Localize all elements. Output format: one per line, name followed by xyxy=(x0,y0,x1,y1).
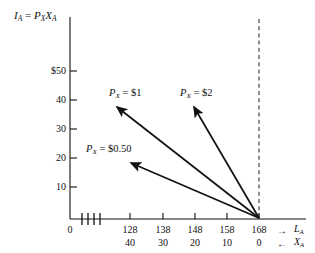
x-tick-label-0: 0 xyxy=(58,225,82,235)
y-tick-label-50: $50 xyxy=(38,66,66,76)
series-line-p2 xyxy=(194,107,259,218)
y-axis-title-x-sub: A xyxy=(52,14,57,23)
x-axis-name-la: LA xyxy=(294,224,304,234)
series-line-p1 xyxy=(117,107,259,218)
y-axis-title-eq: = xyxy=(25,9,31,21)
x-tick-label-168: 168 xyxy=(241,225,277,235)
y-axis-title-i-sub: A xyxy=(18,14,23,23)
x-tick-label-128: 128 xyxy=(112,225,148,235)
series-label-p1: PX = $1 xyxy=(109,88,141,99)
x-tick-label-158: 158 xyxy=(209,225,245,235)
y-axis-ticks xyxy=(70,71,77,187)
x-tick-label-138: 138 xyxy=(145,225,181,235)
x2-tick-label-20: 20 xyxy=(177,238,213,248)
right-arrow-icon: → xyxy=(277,225,287,236)
series-label-p2: PX = $2 xyxy=(180,88,212,99)
x-axis-name-xa-sub: A xyxy=(300,241,304,248)
y-tick-label-10: 10 xyxy=(38,182,66,192)
left-arrow-icon: ← xyxy=(277,238,287,249)
x-axis-name-xa: XA xyxy=(294,237,304,247)
x2-tick-label-10: 10 xyxy=(209,238,245,248)
x-axis-ticks xyxy=(130,213,259,219)
y-axis-title-x: X xyxy=(45,9,52,21)
y-axis-title: IA = PXXA xyxy=(14,10,57,21)
y-axis-title-p-sub: X xyxy=(41,14,46,23)
x-tick-label-148: 148 xyxy=(177,225,213,235)
series-line-p050 xyxy=(131,163,259,218)
y-tick-label-30: 30 xyxy=(38,124,66,134)
x2-tick-label-30: 30 xyxy=(145,238,181,248)
series-label-p050: PX = $0.50 xyxy=(86,144,132,155)
y-tick-label-40: 40 xyxy=(38,95,66,105)
y-tick-label-20: 20 xyxy=(38,153,66,163)
chart-figure: IA = PXXA $50 40 30 20 10 0 128 138 148 … xyxy=(0,0,315,253)
x-axis-name-la-sub: A xyxy=(300,228,304,235)
x2-tick-label-0: 0 xyxy=(241,238,277,248)
y-axis-title-p: P xyxy=(34,9,41,21)
x2-tick-label-40: 40 xyxy=(112,238,148,248)
